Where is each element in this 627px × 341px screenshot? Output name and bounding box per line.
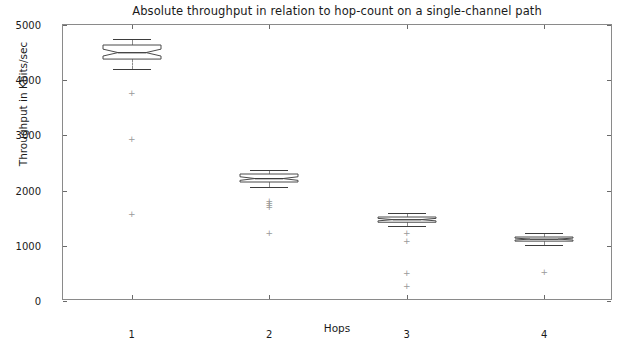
y-tick-label: 0 xyxy=(0,296,41,307)
y-tick-label: 1000 xyxy=(0,240,41,251)
outlier-marker: + xyxy=(540,268,548,277)
y-tick-label: 3000 xyxy=(0,130,41,141)
notched-box xyxy=(513,233,575,245)
x-tick-label: 1 xyxy=(112,329,152,340)
y-tick-label: 4000 xyxy=(0,75,41,86)
y-tick-label: 5000 xyxy=(0,20,41,31)
y-tick-mark xyxy=(63,301,67,302)
x-tick-label: 4 xyxy=(524,329,564,340)
plot-area: 010002000300040005000 1234 +++++++++++++ xyxy=(62,24,612,300)
chart-page: Absolute throughput in relation to hop-c… xyxy=(0,0,627,341)
y-tick-label: 2000 xyxy=(0,185,41,196)
chart-title: Absolute throughput in relation to hop-c… xyxy=(62,4,612,18)
boxplot-group: + xyxy=(63,25,613,299)
y-axis-label: Throughput in Kbits/sec xyxy=(17,14,29,194)
y-tick-mark xyxy=(607,301,611,302)
x-tick-label: 2 xyxy=(249,329,289,340)
x-tick-label: 3 xyxy=(387,329,427,340)
